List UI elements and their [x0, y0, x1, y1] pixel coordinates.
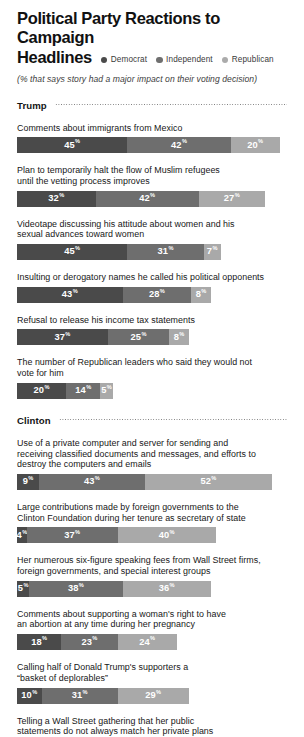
bar-segment-value: 23%: [81, 638, 97, 647]
legend-swatch-icon: [101, 57, 108, 64]
bar-segment-republican: 7%: [204, 244, 221, 260]
chart-item: Plan to temporarily halt the flow of Mus…: [17, 165, 287, 206]
bar-segment-value: 45%: [64, 247, 80, 256]
bar-segment-democrat: 18%: [17, 634, 61, 650]
bar-segment-independent: 43%: [39, 474, 145, 490]
legend-swatch-icon: [156, 57, 163, 64]
stacked-bar: 5%38%36%: [17, 581, 287, 597]
stacked-bar: 43%28%8%: [17, 287, 287, 303]
chart-item-label: Calling half of Donald Trump's supporter…: [17, 662, 287, 683]
bar-segment-democrat: 32%: [17, 191, 96, 207]
legend-swatch-icon: [222, 57, 229, 64]
bar-segment-value: 40%: [159, 531, 175, 540]
section-header: Clinton: [17, 415, 287, 426]
chart-item: Calling half of Donald Trump's supporter…: [17, 662, 287, 703]
bar-segment-value: 31%: [72, 691, 88, 700]
section-divider: [59, 419, 287, 420]
stacked-bar: 10%31%29%: [17, 688, 287, 704]
chart-item: Her numerous six-figure speaking fees fr…: [17, 555, 287, 596]
page-title: Political Party Reactions to Campaign: [17, 9, 287, 47]
section-title: Trump: [17, 100, 47, 111]
bar-segment-value: 43%: [84, 477, 100, 486]
chart-item-label: Comments about immigrants from Mexico: [17, 123, 287, 134]
bar-segment-independent: 38%: [29, 581, 122, 597]
bar-segment-democrat: 5%: [17, 581, 29, 597]
chart-item-label: Insulting or derogatory names he called …: [17, 272, 287, 283]
bar-segment-value: 18%: [31, 638, 47, 647]
legend-label: Republican: [232, 55, 274, 64]
bar-segment-value: 9%: [23, 477, 34, 486]
bar-segment-republican: 36%: [123, 581, 211, 597]
bar-segment-republican: 52%: [145, 474, 273, 490]
bar-segment-independent: 28%: [123, 287, 192, 303]
bar-segment-democrat: 20%: [17, 383, 66, 399]
page-title-line1: Political Party Reactions to Campaign: [17, 9, 220, 46]
section-divider: [55, 104, 287, 105]
stacked-bar: 4%37%40%: [17, 527, 287, 543]
bar-segment-democrat: 4%: [17, 527, 27, 543]
bar-segment-value: 31%: [158, 247, 174, 256]
chart-item-label: Refusal to release his income tax statem…: [17, 315, 287, 326]
bar-segment-republican: 29%: [118, 688, 189, 704]
legend-item: Democrat: [101, 55, 147, 64]
bar-segment-republican: 40%: [118, 527, 216, 543]
bar-segment-value: 5%: [18, 584, 29, 593]
bar-segment-republican: 20%: [231, 137, 280, 153]
section-title: Clinton: [17, 415, 51, 426]
stacked-bar: 9%43%52%: [17, 474, 287, 490]
chart-header: Political Party Reactions to Campaign He…: [17, 0, 287, 84]
chart-section: ClintonUse of a private computer and ser…: [17, 415, 287, 737]
bar-segment-value: 14%: [75, 386, 91, 395]
chart-item-label: Videotape discussing his attitude about …: [17, 219, 287, 240]
stacked-bar: 18%23%24%: [17, 634, 287, 650]
chart-item: Large contributions made by foreign gove…: [17, 502, 287, 543]
bar-segment-value: 5%: [101, 386, 112, 395]
bar-segment-value: 20%: [34, 386, 50, 395]
chart-item: Insulting or derogatory names he called …: [17, 272, 287, 303]
chart-legend: DemocratIndependentRepublican: [101, 55, 287, 65]
bar-segment-democrat: 9%: [17, 474, 39, 490]
bar-segment-democrat: 45%: [17, 137, 127, 153]
chart-item-label: Use of a private computer and server for…: [17, 438, 287, 470]
bar-segment-value: 42%: [139, 194, 155, 203]
bar-segment-republican: 27%: [199, 191, 265, 207]
chart-item: Telling a Wall Street gathering that her…: [17, 716, 287, 737]
chart-subtitle: (% that says story had a major impact on…: [17, 74, 287, 84]
bar-segment-value: 42%: [171, 141, 187, 150]
chart-item-label: Plan to temporarily halt the flow of Mus…: [17, 165, 287, 186]
bar-segment-value: 52%: [201, 477, 217, 486]
chart-sections: TrumpComments about immigrants from Mexi…: [17, 100, 287, 737]
section-header: Trump: [17, 100, 287, 111]
bar-segment-value: 29%: [145, 691, 161, 700]
bar-segment-democrat: 10%: [17, 688, 42, 704]
bar-segment-democrat: 45%: [17, 244, 127, 260]
bar-segment-independent: 25%: [108, 329, 169, 345]
bar-segment-republican: 8%: [191, 287, 211, 303]
bar-segment-independent: 42%: [127, 137, 230, 153]
bar-segment-value: 27%: [224, 194, 240, 203]
bar-segment-value: 25%: [131, 333, 147, 342]
bar-segment-value: 36%: [159, 584, 175, 593]
bar-segment-value: 20%: [247, 141, 263, 150]
stacked-bar: 20%14%5%: [17, 383, 287, 399]
stacked-bar: 45%42%20%: [17, 137, 287, 153]
legend-label: Democrat: [111, 55, 147, 64]
chart-item-label: Comments about supporting a woman's righ…: [17, 609, 287, 630]
chart-item: Comments about immigrants from Mexico45%…: [17, 123, 287, 154]
bar-segment-value: 7%: [207, 247, 218, 256]
bar-segment-value: 37%: [64, 531, 80, 540]
bar-segment-value: 24%: [139, 638, 155, 647]
bar-segment-value: 8%: [196, 290, 207, 299]
bar-segment-independent: 31%: [42, 688, 118, 704]
chart-item-label: Telling a Wall Street gathering that her…: [17, 716, 287, 737]
bar-segment-value: 28%: [149, 290, 165, 299]
chart-section: TrumpComments about immigrants from Mexi…: [17, 100, 287, 399]
chart-item: Refusal to release his income tax statem…: [17, 315, 287, 346]
bar-segment-independent: 14%: [66, 383, 100, 399]
chart-item: The number of Republican leaders who sai…: [17, 357, 287, 398]
bar-segment-value: 38%: [68, 584, 84, 593]
bar-segment-independent: 31%: [127, 244, 203, 260]
bar-segment-independent: 42%: [96, 191, 199, 207]
chart-item-label: The number of Republican leaders who sai…: [17, 357, 287, 378]
page-title-line2: Headlines: [17, 48, 92, 67]
